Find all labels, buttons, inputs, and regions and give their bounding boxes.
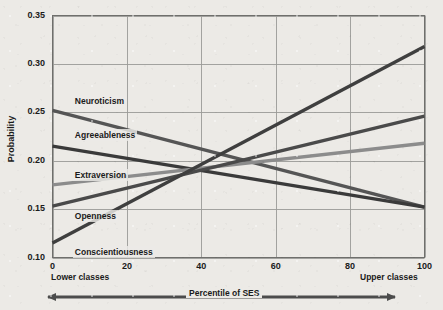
series-label-neuroticism: Neuroticism — [75, 96, 124, 106]
y-tick-label: 0.20 — [13, 155, 45, 165]
y-tick-label: 0.10 — [13, 252, 45, 262]
series-label-extraversion: Extraversion — [75, 170, 127, 180]
x-tick-label: 100 — [410, 261, 440, 271]
x-tick-label: 0 — [38, 261, 68, 271]
chart-figure: Probability 0.350.300.250.200.150.10 020… — [0, 0, 443, 310]
series-label-openness: Openness — [75, 211, 116, 221]
x-tick-label: 40 — [186, 261, 216, 271]
x-axis-title: Percentile of SES — [186, 288, 262, 298]
x-tick-label: 80 — [335, 261, 365, 271]
x-tick-label: 20 — [112, 261, 142, 271]
lower-classes-label: Lower classes — [51, 272, 109, 282]
upper-classes-label: Upper classes — [360, 272, 418, 282]
x-tick-label: 60 — [261, 261, 291, 271]
series-label-agreeableness: Agreeableness — [75, 130, 135, 140]
y-tick-label: 0.15 — [13, 203, 45, 213]
y-tick-label: 0.30 — [13, 58, 45, 68]
y-tick-label: 0.35 — [13, 10, 45, 20]
y-tick-label: 0.25 — [13, 106, 45, 116]
series-label-conscientiousness: Conscientiousness — [75, 247, 153, 257]
